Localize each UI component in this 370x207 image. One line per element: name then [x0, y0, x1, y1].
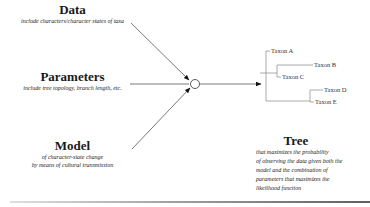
parameters-subtitle: include tree topology, branch length, et… [0, 84, 145, 92]
taxon-a-label: Taxon A [271, 47, 293, 54]
tree-title: Tree [256, 134, 336, 148]
parameters-input-block: Parameters include tree topology, branch… [0, 70, 145, 92]
data-subtitle: include characters/character states of t… [0, 17, 145, 25]
tree-subtitle-line-2: of observing the data given both the [256, 157, 356, 166]
model-subtitle-line-1: of character-state change [0, 153, 145, 161]
parameters-title: Parameters [0, 70, 145, 84]
tree-subtitle-line-4: parameters that maximizes the [256, 175, 356, 184]
taxon-e-label: Taxon E [315, 98, 337, 105]
model-input-block: Model of character-state change by means… [0, 139, 145, 169]
model-subtitle-line-2: by means of cultural transmission [0, 161, 145, 169]
junction-node [191, 80, 200, 89]
model-title: Model [0, 139, 145, 153]
tree-output-block: Tree that maximizes the probability of o… [256, 134, 356, 193]
tree-subtitle-line-5: likelihood function [256, 184, 356, 193]
bottom-divider [10, 201, 370, 203]
data-input-block: Data include characters/character states… [0, 3, 145, 25]
tree-subtitle-line-3: model and the combination of [256, 166, 356, 175]
taxon-c-label: Taxon C [282, 73, 304, 80]
taxon-d-label: Taxon D [324, 86, 346, 93]
data-title: Data [0, 3, 145, 17]
taxon-b-label: Taxon B [314, 61, 336, 68]
tree-subtitle-line-1: that maximizes the probability [256, 148, 356, 157]
